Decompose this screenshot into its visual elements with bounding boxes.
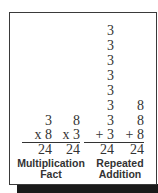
add8-result: 24 [114,143,144,157]
add3-row-3: 3 [84,54,114,68]
figure-box: 3 x 8 24 8 x 3 24 Multiplication Fact 3 … [9,12,157,185]
add3-row-2: 3 [84,39,114,53]
add3-row-7: 3 [84,114,114,128]
add3-row-4: 3 [84,69,114,83]
add8-row-1: 8 [114,99,144,113]
add3-row-6: 3 [84,99,114,113]
box-shadow [17,184,158,193]
mult-2-result: 24 [50,143,80,157]
add3-row-5: 3 [84,84,114,98]
add8-row-2: 8 [114,114,144,128]
mult-label-line2: Fact [10,169,92,180]
add3-last: + 3 [84,128,114,143]
mult-1-top: 3 [22,114,52,128]
add-label-line2: Addition [84,169,156,180]
mult-1-result: 24 [22,143,52,157]
add3-result: 24 [84,143,114,157]
mult-2-operator: x 3 [50,128,80,143]
add8-last: + 8 [114,128,144,143]
mult-2-top: 8 [50,114,80,128]
mult-1-operator: x 8 [22,128,52,143]
add3-row-1: 3 [84,24,114,38]
